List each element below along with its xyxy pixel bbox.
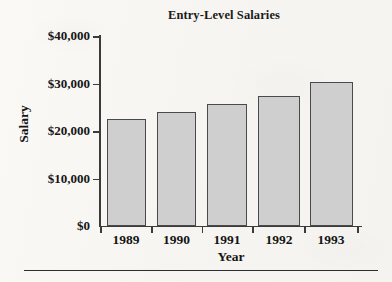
x-axis-tick-1 [151,226,153,233]
x-axis-label-1993: 1993 [318,232,345,248]
x-axis-tick-3 [252,226,254,233]
chart-title: Entry-Level Salaries [96,8,352,23]
y-axis-tick-30000 [93,84,100,86]
x-axis-label-1992: 1992 [266,232,293,248]
x-axis-tick-4 [304,226,306,233]
y-axis-label-40000: $40,000 [48,28,90,44]
bar-1992 [258,96,300,226]
y-axis-label-30000: $30,000 [48,76,90,92]
bar-1989 [107,119,146,226]
y-axis-label-10000: $10,000 [48,171,90,187]
y-axis-tick-20000 [93,131,100,133]
y-axis-tick-10000 [93,179,100,181]
y-axis-label-20000: $20,000 [48,123,90,139]
y-axis-tick-40000 [93,36,100,38]
bar-chart-figure: Entry-Level Salaries $40,000 $30,000 $20… [0,0,392,282]
x-axis-label-1991: 1991 [214,232,241,248]
bar-1990 [157,112,196,226]
x-axis-tick-5 [357,226,359,233]
bar-1991 [207,104,247,226]
x-axis-title: Year [100,249,362,265]
bar-1993 [310,82,353,226]
bottom-horizontal-rule [24,270,378,271]
x-axis-label-1990: 1990 [163,232,190,248]
x-axis-tick-0 [100,226,102,233]
x-axis-label-1989: 1989 [113,232,140,248]
y-axis-label-0: $0 [77,218,90,234]
y-axis-title: Salary [16,94,32,154]
x-axis-tick-2 [202,226,204,233]
